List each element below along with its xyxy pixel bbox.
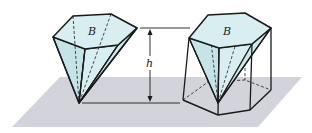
arrow-up-icon	[148, 29, 153, 35]
pyramid-prism-diagram: B h B	[0, 0, 312, 133]
base-label-right: B	[222, 25, 231, 38]
height-label: h	[146, 57, 153, 70]
base-label-left: B	[87, 25, 96, 38]
